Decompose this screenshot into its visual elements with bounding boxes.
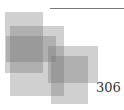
document-page-corner: 306 [0,0,124,110]
page-number: 306 [96,80,121,95]
decorative-square [51,56,88,104]
header-rule [50,8,124,9]
